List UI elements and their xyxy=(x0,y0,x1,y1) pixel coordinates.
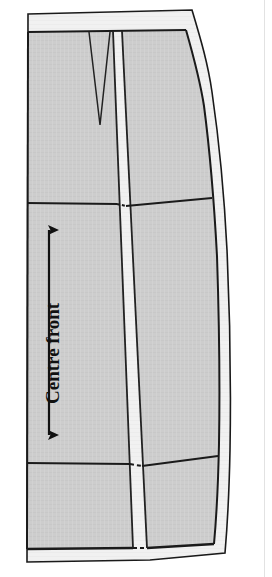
pattern-diagram-svg xyxy=(0,0,272,577)
left-hem-line xyxy=(27,548,133,549)
left-edge-line xyxy=(27,32,28,549)
pattern-diagram-canvas: Centre front xyxy=(0,0,272,577)
lower-balance-line-left xyxy=(27,463,130,464)
centre-front-label: Centre front xyxy=(42,303,64,404)
upper-balance-line-left xyxy=(27,203,117,204)
